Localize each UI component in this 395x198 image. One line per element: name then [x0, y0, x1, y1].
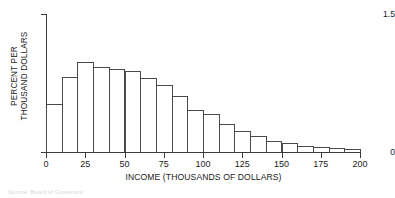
y-tick-label-0: 0	[373, 147, 395, 157]
x-tick-mark-175	[321, 153, 322, 158]
histogram-bar	[156, 85, 173, 152]
x-tick-mark-50	[125, 153, 126, 158]
histogram-bar	[77, 62, 94, 152]
x-tick-mark-125	[242, 153, 243, 158]
y-axis-title-line-1: PERCENT PER	[10, 46, 21, 106]
histogram-bar	[187, 110, 204, 152]
histogram-bar	[266, 141, 283, 152]
histogram-bar	[282, 143, 299, 152]
histogram-bar	[93, 67, 110, 152]
histogram-bar	[109, 69, 126, 152]
histogram-bar	[203, 114, 220, 152]
histogram-bar	[329, 148, 346, 152]
x-tick-label-100: 100	[190, 159, 216, 169]
histogram-bar	[172, 96, 189, 152]
x-tick-mark-100	[203, 153, 204, 158]
x-tick-label-200: 200	[347, 159, 373, 169]
x-tick-label-175: 175	[308, 159, 334, 169]
histogram-bar	[234, 131, 251, 152]
histogram-figure: PERCENT PER THOUSAND DOLLARS 1.5 0 02550…	[0, 0, 395, 198]
x-tick-mark-0	[46, 153, 47, 158]
histogram-bar	[297, 146, 314, 152]
histogram-bar	[344, 149, 361, 152]
x-tick-mark-25	[85, 153, 86, 158]
x-tick-label-25: 25	[72, 159, 98, 169]
figure-caption: Source: Board of Governors	[8, 189, 208, 196]
histogram-bar	[313, 147, 330, 152]
histogram-bar	[250, 136, 267, 152]
x-tick-label-50: 50	[112, 159, 138, 169]
histogram-bar	[140, 78, 157, 152]
x-tick-label-75: 75	[151, 159, 177, 169]
x-tick-mark-75	[164, 153, 165, 158]
histogram-bar	[219, 124, 236, 152]
x-tick-label-0: 0	[33, 159, 59, 169]
y-axis-title-line-2: THOUSAND DOLLARS	[20, 32, 31, 121]
histogram-bar	[46, 104, 63, 152]
x-tick-label-125: 125	[229, 159, 255, 169]
x-axis-title: INCOME (THOUSANDS OF DOLLARS)	[46, 172, 361, 182]
histogram-bar	[62, 77, 79, 152]
y-axis-title: PERCENT PER THOUSAND DOLLARS	[0, 0, 40, 152]
x-tick-mark-200	[360, 153, 361, 158]
x-tick-label-150: 150	[269, 159, 295, 169]
y-tick-label-1_5: 1.5	[373, 9, 395, 19]
histogram-bar	[125, 71, 142, 152]
x-tick-mark-150	[282, 153, 283, 158]
plot-area	[46, 14, 360, 152]
